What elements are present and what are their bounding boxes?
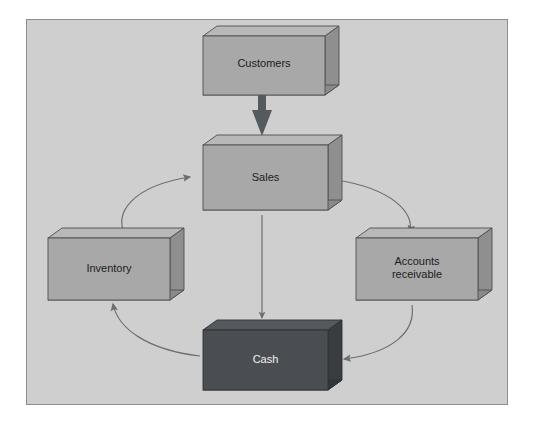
- node-inventory[interactable]: [48, 228, 184, 300]
- node-customers[interactable]: [203, 26, 339, 95]
- connector-inventory-to-sales: [122, 177, 190, 236]
- connector-customers-to-sales: [252, 95, 272, 136]
- node-cash[interactable]: [203, 320, 342, 390]
- connector-sales-to-accounts-receivable: [337, 180, 410, 232]
- node-accounts-receivable[interactable]: [356, 228, 492, 300]
- diagram-canvas: Customers Sales Inventory Accounts recei…: [0, 0, 533, 428]
- diagram-graphics: [0, 0, 533, 428]
- node-sales[interactable]: [203, 135, 342, 210]
- connector-cash-to-inventory: [113, 304, 200, 356]
- connector-accounts-receivable-to-cash: [344, 305, 412, 359]
